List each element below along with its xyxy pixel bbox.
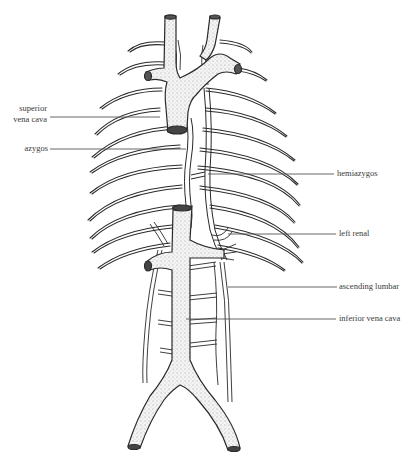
- label-inferior-vena-cava: inferior vena cava: [339, 313, 400, 324]
- label-superior-vena-cava: superior vena cava: [0, 103, 47, 125]
- label-left-renal: left renal: [339, 228, 369, 239]
- label-svc-line2: vena cava: [0, 114, 47, 125]
- inferior-vena-cava: [128, 205, 240, 452]
- label-ascending-lumbar: ascending lumbar: [339, 281, 399, 292]
- superior-vena-cava: [145, 15, 242, 134]
- label-hemiazygos: hemiazygos: [337, 168, 378, 179]
- label-svc-line1: superior: [0, 103, 47, 114]
- venous-system-diagram: superior vena cava azygos hemiazygos lef…: [0, 0, 419, 460]
- label-azygos: azygos: [0, 143, 48, 154]
